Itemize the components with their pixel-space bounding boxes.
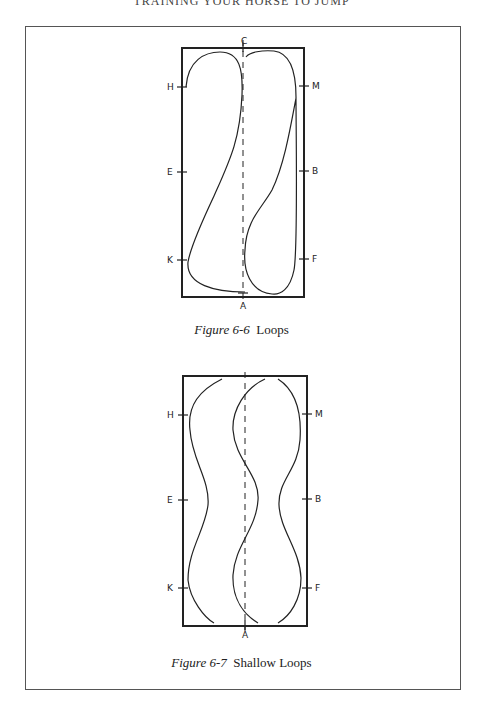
arena-outline bbox=[183, 376, 307, 626]
centre-serpentine-path bbox=[233, 379, 265, 623]
marker-h: H bbox=[167, 82, 174, 92]
marker-f: F bbox=[315, 583, 320, 593]
figure-title: Loops bbox=[256, 322, 289, 337]
figure-6-7-caption: Figure 6-7 Shallow Loops bbox=[0, 655, 483, 671]
marker-c: C bbox=[241, 36, 247, 46]
left-shallow-loop-path bbox=[188, 379, 222, 623]
right-loop-path bbox=[245, 51, 297, 294]
marker-h: H bbox=[167, 410, 174, 420]
marker-a: A bbox=[240, 301, 247, 311]
marker-a: A bbox=[242, 630, 249, 640]
figure-6-6-diagram bbox=[177, 40, 309, 302]
marker-f: F bbox=[312, 254, 317, 264]
figure-number: Figure 6-7 bbox=[171, 655, 226, 670]
marker-m: M bbox=[315, 409, 323, 419]
marker-m: M bbox=[312, 81, 320, 91]
figure-number: Figure 6-6 bbox=[194, 322, 249, 337]
right-shallow-loop-path bbox=[278, 379, 301, 623]
marker-b: B bbox=[312, 166, 318, 176]
marker-e: E bbox=[167, 495, 173, 505]
marker-e: E bbox=[167, 167, 173, 177]
marker-k: K bbox=[167, 583, 174, 593]
figure-6-7-diagram bbox=[178, 372, 312, 632]
arena-diagrams: C H E K M B F A H E K M B F A bbox=[0, 0, 483, 718]
marker-k: K bbox=[167, 255, 174, 265]
figure-6-6-caption: Figure 6-6 Loops bbox=[0, 322, 483, 338]
figure-title: Shallow Loops bbox=[233, 655, 311, 670]
left-loop-path bbox=[186, 52, 245, 292]
marker-b: B bbox=[315, 494, 321, 504]
